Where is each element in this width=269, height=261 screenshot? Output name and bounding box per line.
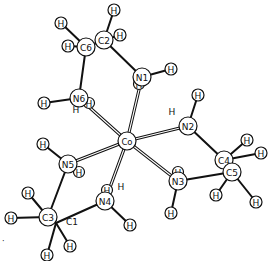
- svg-text:N1: N1: [136, 73, 148, 83]
- svg-text:C6: C6: [80, 43, 92, 53]
- hydrogen-atom: H: [124, 219, 136, 231]
- atom-co: Co: [118, 132, 136, 150]
- hydrogen-atom: H: [38, 97, 50, 109]
- svg-text:H: H: [117, 31, 124, 41]
- atom-n5: N5: [59, 155, 77, 173]
- hydrogen-atom: H: [192, 89, 204, 101]
- atoms: HHHHHCoN1N2N3N4N5N6C2C3C4C5C6HHHHHHHHHHH…: [5, 4, 267, 261]
- covalent-bonds: [48, 40, 232, 223]
- svg-text:H: H: [58, 19, 65, 29]
- svg-text:C2: C2: [98, 36, 110, 46]
- svg-text:N2: N2: [182, 122, 194, 132]
- svg-text:H: H: [41, 99, 48, 109]
- atom-c2: C2: [95, 31, 113, 49]
- hydrogen-atom: H: [255, 147, 267, 159]
- stray-mark: ·: [2, 237, 5, 246]
- svg-text:H: H: [127, 221, 134, 231]
- svg-text:H: H: [67, 242, 74, 252]
- hydrogen-atom: H: [22, 187, 34, 199]
- hydrogen-atom: H: [165, 63, 177, 75]
- atom-n2: N2: [179, 117, 197, 135]
- atom-label: C1: [66, 217, 78, 227]
- svg-text:H: H: [76, 168, 83, 178]
- hydrogen-atom: H: [37, 138, 49, 150]
- svg-text:H: H: [168, 65, 175, 75]
- svg-text:H: H: [44, 251, 51, 261]
- atom-n4: N4: [96, 192, 114, 210]
- svg-text:H: H: [8, 214, 15, 224]
- svg-text:C5: C5: [226, 168, 238, 178]
- atom-c3: C3: [39, 208, 57, 226]
- atom-n3: N3: [169, 172, 187, 190]
- svg-text:H: H: [213, 191, 220, 201]
- svg-text:H: H: [244, 136, 251, 146]
- molecular-structure-diagram: HHHHHCoN1N2N3N4N5N6C2C3C4C5C6HHHHHHHHHHH…: [0, 0, 269, 261]
- hydrogen-atom: H: [64, 240, 76, 252]
- atom-label: H: [169, 107, 176, 117]
- hydrogen-atom: H: [210, 189, 222, 201]
- hydrogen-atom: H: [5, 212, 17, 224]
- hydrogen-atom: H: [41, 249, 53, 261]
- coordinate-bond-inner: [127, 141, 178, 181]
- svg-text:H: H: [195, 91, 202, 101]
- atom-c6: C6: [77, 38, 95, 56]
- hydrogen-atom: H: [108, 4, 120, 16]
- hydrogen-atom: H: [241, 134, 253, 146]
- svg-text:N4: N4: [99, 197, 112, 207]
- svg-text:H: H: [168, 209, 175, 219]
- svg-text:H: H: [111, 6, 118, 16]
- atom-label: H: [118, 182, 125, 192]
- svg-text:H: H: [25, 189, 32, 199]
- svg-text:H: H: [65, 42, 72, 52]
- svg-text:N3: N3: [172, 177, 184, 187]
- atom-c5: C5: [223, 163, 241, 181]
- hydrogen-atom: H: [165, 207, 177, 219]
- hydrogen-atom: H: [114, 29, 126, 41]
- svg-text:N6: N6: [73, 94, 86, 104]
- hydrogen-atom: H: [55, 17, 67, 29]
- hydrogen-atom: H: [62, 40, 74, 52]
- svg-text:Co: Co: [121, 137, 132, 147]
- svg-text:C3: C3: [42, 213, 54, 223]
- floating-labels: HHHC1·: [2, 105, 175, 246]
- hydrogen-atom: H: [250, 196, 262, 208]
- svg-text:H: H: [258, 149, 265, 159]
- svg-text:H: H: [40, 140, 47, 150]
- svg-text:H: H: [253, 198, 260, 208]
- atom-n1: N1: [133, 68, 151, 86]
- atom-label: H: [73, 105, 80, 115]
- svg-text:N5: N5: [62, 160, 74, 170]
